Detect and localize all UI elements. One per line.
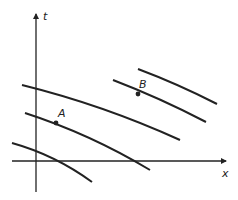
- point-a-marker: [54, 121, 59, 126]
- point-a-label: A: [57, 107, 66, 120]
- characteristic-curve: [138, 69, 217, 104]
- characteristic-curve: [113, 80, 206, 122]
- characteristic-curve: [12, 143, 92, 182]
- characteristics-diagram: t x A B: [0, 0, 238, 200]
- x-axis-label: x: [221, 167, 229, 180]
- point-b-label: B: [139, 78, 147, 91]
- t-axis-label: t: [43, 10, 48, 23]
- point-b-marker: [136, 92, 141, 97]
- characteristic-curve: [22, 85, 180, 140]
